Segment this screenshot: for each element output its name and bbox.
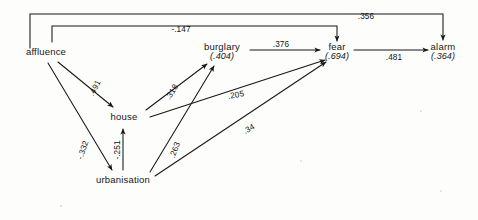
edge-label-fear-alarm: .481 [386, 53, 402, 62]
node-fear-r2: (.694) [325, 52, 349, 61]
scan-speckle [300, 160, 302, 162]
edge-affluence-house [58, 62, 113, 107]
scan-speckle [440, 190, 442, 192]
node-alarm-r2: (.364) [431, 52, 456, 61]
edge-label-affluence-alarm: .356 [358, 12, 374, 21]
node-burglary-r2: (.404) [204, 52, 240, 61]
node-burglary[interactable]: burglary (.404) [204, 42, 240, 61]
edge-label-burglary-fear: .376 [273, 40, 289, 49]
node-urbanisation[interactable]: urbanisation [96, 175, 150, 185]
edge-layer [0, 0, 478, 220]
node-house-label: house [111, 112, 138, 122]
scan-speckle [60, 205, 62, 207]
node-affluence-label: affluence [26, 47, 66, 57]
node-alarm[interactable]: alarm (.364) [431, 42, 456, 61]
edge-label-affluence-fear: -.147 [171, 25, 190, 34]
node-house[interactable]: house [111, 112, 138, 122]
node-affluence[interactable]: affluence [26, 47, 66, 57]
node-fear[interactable]: fear (.694) [325, 42, 349, 61]
edge-urbanisation-burglary [150, 66, 214, 172]
edge-label-urbanisation-house: -.251 [113, 140, 122, 159]
scan-speckle [420, 110, 422, 112]
edge-affluence-fear [52, 26, 337, 42]
edge-urbanisation-fear [155, 62, 326, 176]
path-diagram: affluence burglary (.404) fear (.694) al… [0, 0, 478, 220]
node-urbanisation-label: urbanisation [96, 175, 150, 185]
